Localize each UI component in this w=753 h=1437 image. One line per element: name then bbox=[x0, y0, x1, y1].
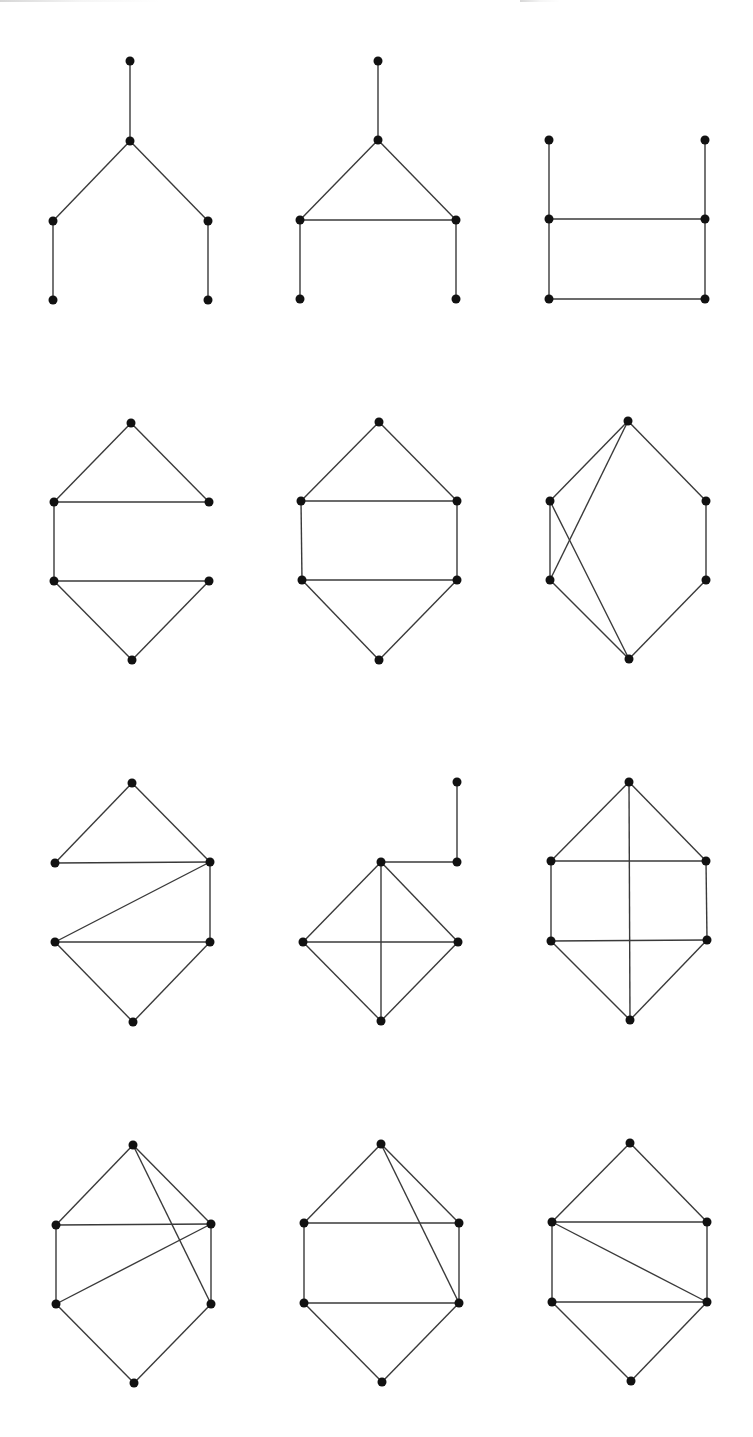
graph-vertex bbox=[205, 577, 214, 586]
graph-vertex bbox=[548, 1298, 557, 1307]
graph-vertex bbox=[452, 216, 461, 225]
graph-vertex bbox=[703, 936, 712, 945]
graph-edge bbox=[379, 580, 457, 660]
graph-edge bbox=[378, 140, 456, 220]
graph-edge bbox=[629, 782, 630, 1020]
graph-vertex bbox=[627, 1377, 636, 1386]
graph-vertex bbox=[702, 576, 711, 585]
graph-edge bbox=[56, 1145, 133, 1225]
graph-edge bbox=[552, 1302, 631, 1381]
graph-vertex bbox=[624, 417, 633, 426]
graph-edge bbox=[630, 1143, 707, 1222]
graph-vertex bbox=[377, 858, 386, 867]
graph-10 bbox=[52, 1141, 216, 1388]
graph-edge bbox=[551, 782, 629, 861]
graph-vertex bbox=[374, 136, 383, 145]
graph-8 bbox=[299, 778, 463, 1026]
graph-edge bbox=[54, 581, 132, 660]
graphs-layer bbox=[49, 57, 712, 1388]
graph-vertex bbox=[452, 295, 461, 304]
graph-edge bbox=[381, 1144, 459, 1223]
graph-11 bbox=[300, 1140, 464, 1387]
graph-edge bbox=[134, 1304, 211, 1383]
graph-7 bbox=[51, 779, 215, 1027]
graph-vertex bbox=[702, 857, 711, 866]
graph-vertex bbox=[128, 656, 137, 665]
graph-edge bbox=[550, 421, 628, 501]
graph-vertex bbox=[547, 937, 556, 946]
graph-edge bbox=[300, 140, 378, 220]
graph-vertex bbox=[207, 1220, 216, 1229]
graph-vertex bbox=[296, 295, 305, 304]
graph-vertex bbox=[453, 858, 462, 867]
graph-vertex bbox=[129, 1018, 138, 1027]
graph-vertex bbox=[300, 1299, 309, 1308]
graph-edge bbox=[133, 1145, 211, 1224]
graph-vertex bbox=[49, 296, 58, 305]
graph-vertex bbox=[205, 498, 214, 507]
graph-vertex bbox=[50, 577, 59, 586]
graph-vertex bbox=[206, 858, 215, 867]
graph-edge bbox=[56, 1224, 211, 1225]
graph-vertex bbox=[375, 418, 384, 427]
graph-edge bbox=[302, 580, 379, 660]
graph-edge bbox=[706, 861, 707, 940]
graph-edge bbox=[54, 423, 131, 502]
graph-2 bbox=[296, 57, 461, 304]
graph-vertex bbox=[546, 497, 555, 506]
graph-vertex bbox=[701, 295, 710, 304]
graph-edge bbox=[552, 1143, 630, 1222]
graph-edge bbox=[304, 1144, 381, 1223]
graph-vertex bbox=[701, 215, 710, 224]
graph-vertex bbox=[296, 216, 305, 225]
graph-vertex bbox=[297, 497, 306, 506]
graph-vertex bbox=[206, 938, 215, 947]
graph-vertex bbox=[298, 576, 307, 585]
graph-vertex bbox=[547, 857, 556, 866]
graph-1 bbox=[49, 57, 213, 305]
graph-edge bbox=[551, 940, 707, 941]
graph-vertex bbox=[625, 778, 634, 787]
graph-edge bbox=[133, 942, 210, 1022]
graph-vertex bbox=[546, 576, 555, 585]
graph-vertex bbox=[454, 938, 463, 947]
graph-edge bbox=[56, 1304, 134, 1383]
graph-vertex bbox=[455, 1219, 464, 1228]
graph-edge bbox=[628, 421, 706, 501]
graph-vertex bbox=[207, 1300, 216, 1309]
graph-edge bbox=[55, 862, 210, 863]
graph-vertex bbox=[130, 1379, 139, 1388]
graph-edge bbox=[382, 1303, 459, 1382]
graph-edge bbox=[379, 422, 457, 501]
graph-vertex bbox=[127, 419, 136, 428]
graph-edge bbox=[132, 783, 210, 862]
graph-6 bbox=[546, 417, 711, 664]
graph-edge bbox=[53, 141, 130, 221]
graph-edge bbox=[131, 423, 209, 502]
graph-edge bbox=[550, 580, 629, 659]
graph-edge bbox=[630, 940, 707, 1020]
graph-5 bbox=[297, 418, 462, 665]
graph-edge bbox=[552, 1222, 707, 1302]
graph-edge bbox=[550, 421, 628, 580]
graph-3 bbox=[545, 136, 710, 304]
graph-edge bbox=[303, 942, 381, 1021]
graph-vertex bbox=[548, 1218, 557, 1227]
graph-vertex bbox=[126, 137, 135, 146]
graph-edge bbox=[56, 1224, 211, 1304]
graph-vertex bbox=[204, 296, 213, 305]
graph-vertex bbox=[51, 859, 60, 868]
graph-vertex bbox=[703, 1298, 712, 1307]
graph-edge bbox=[550, 501, 629, 659]
graph-vertex bbox=[701, 136, 710, 145]
graph-edge bbox=[132, 581, 209, 660]
graph-figure bbox=[0, 0, 753, 1437]
graph-vertex bbox=[126, 57, 135, 66]
graph-9 bbox=[547, 778, 712, 1025]
graph-vertex bbox=[128, 779, 137, 788]
graph-vertex bbox=[50, 498, 59, 507]
graph-edge bbox=[301, 422, 379, 501]
graph-vertex bbox=[300, 1219, 309, 1228]
graph-edge bbox=[629, 580, 706, 659]
graph-vertex bbox=[455, 1299, 464, 1308]
